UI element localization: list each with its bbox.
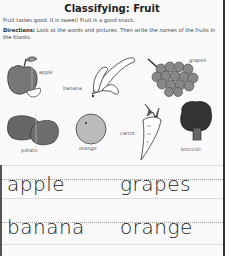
directions-label: Directions: — [3, 27, 35, 33]
grapes-icon — [145, 57, 200, 97]
broccoli-icon — [178, 100, 214, 144]
answer-blank-1[interactable]: apple — [7, 172, 65, 196]
page-title: Classifying: Fruit — [0, 3, 224, 14]
directions-text: Look at the words and pictures. Then wri… — [3, 27, 215, 40]
picture-label-carrot: carrot — [120, 130, 135, 136]
picture-label-potato: potato — [21, 147, 37, 153]
banana-icon — [88, 54, 138, 100]
answer-blank-2[interactable]: grapes — [120, 172, 191, 196]
picture-label-banana: banana — [63, 85, 82, 91]
carrot-icon — [137, 102, 165, 162]
picture-label-apple: apple — [39, 69, 53, 75]
intro-text: Fruit tastes good. It is sweet! Fruit is… — [3, 17, 135, 23]
picture-label-orange: orange — [79, 145, 97, 151]
writing-baseline-2 — [2, 244, 223, 245]
page-margin — [225, 0, 229, 256]
writing-baseline-1 — [2, 198, 223, 199]
picture-label-grapes: grapes — [189, 57, 206, 63]
answer-blank-4[interactable]: orange — [120, 215, 193, 239]
orange-icon — [74, 112, 108, 146]
picture-label-broccoli: broccoli — [181, 146, 201, 152]
potato-icon — [6, 114, 60, 148]
answer-blank-3[interactable]: banana — [7, 215, 85, 239]
writing-line-top — [2, 165, 223, 166]
apple-icon — [4, 55, 44, 99]
page-border-right — [223, 0, 225, 256]
directions: Directions: Look at the words and pictur… — [3, 27, 221, 40]
